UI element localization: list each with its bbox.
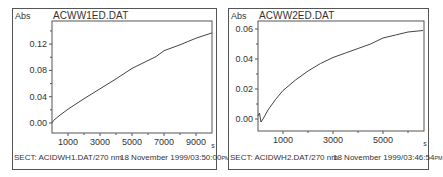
plot-frame bbox=[52, 21, 212, 133]
y-tick-label: 0.08 bbox=[29, 65, 47, 75]
x-tick-label: 1000 bbox=[58, 137, 78, 147]
y-tick-label: 0.04 bbox=[235, 54, 253, 64]
plot-frame bbox=[258, 21, 424, 131]
data-line bbox=[52, 33, 212, 123]
x-tick-label: 3000 bbox=[90, 137, 110, 147]
x-unit-label: s bbox=[211, 142, 215, 149]
data-line bbox=[258, 31, 423, 123]
x-tick-label: 3000 bbox=[323, 135, 343, 145]
x-tick-label: 5000 bbox=[373, 135, 393, 145]
x-tick-label: 5000 bbox=[122, 137, 142, 147]
y-tick-label: 0.00 bbox=[29, 118, 47, 128]
y-tick-label: 0.12 bbox=[29, 39, 47, 49]
y-tick-label: 0.02 bbox=[235, 84, 253, 94]
y-tick-label: 0.04 bbox=[29, 92, 47, 102]
x-tick-label: 7000 bbox=[154, 137, 174, 147]
x-tick-label: 9000 bbox=[186, 137, 206, 147]
y-tick-label: 0.06 bbox=[235, 24, 253, 34]
x-tick-label: 1000 bbox=[273, 135, 293, 145]
x-unit-label: s bbox=[423, 140, 427, 147]
y-tick-label: 0.00 bbox=[235, 114, 253, 124]
